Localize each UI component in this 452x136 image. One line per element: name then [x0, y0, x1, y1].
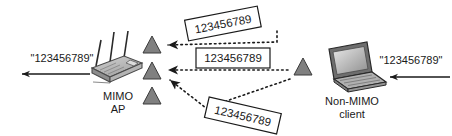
mimo-ap-icon: [92, 31, 142, 83]
diagram-canvas: "123456789" MIMO: [0, 0, 452, 136]
client-label-line2: client: [339, 108, 365, 120]
output-label: "123456789": [31, 52, 94, 64]
packet-middle-text: 123456789: [204, 52, 262, 64]
ap-label: MIMO AP: [103, 90, 133, 115]
packet-middle: 123456789: [196, 48, 270, 68]
antenna-marker-1: [143, 36, 161, 53]
client-label-line1: Non-MIMO: [325, 95, 379, 107]
laptop-screen: [333, 47, 368, 75]
client-antenna-markers: [294, 58, 312, 75]
laptop-icon: [329, 42, 386, 92]
ap-label-line1: MIMO: [103, 90, 133, 102]
packet-bottom: 123456789: [204, 97, 281, 134]
ap-label-line2: AP: [111, 103, 126, 115]
network-diagram: "123456789" MIMO: [0, 0, 452, 136]
input-label: "123456789": [380, 54, 443, 66]
input-arrow-group: "123456789": [380, 54, 450, 77]
output-arrow-group: "123456789": [22, 52, 94, 74]
antenna-marker-3: [143, 87, 161, 104]
packet-top: 123456789: [185, 6, 262, 41]
antenna-marker-4: [294, 58, 312, 75]
client-label: Non-MIMO client: [325, 95, 379, 120]
ap-antenna-markers: [143, 36, 161, 104]
antenna-marker-2: [143, 62, 161, 79]
